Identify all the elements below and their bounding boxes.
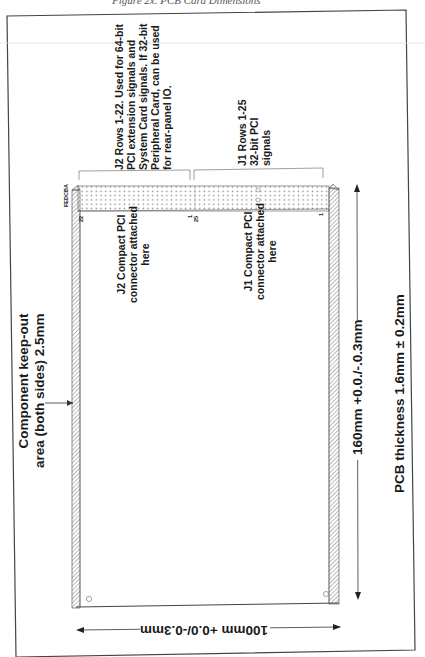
mounting-hole [323, 591, 328, 596]
column-letters: FEDCBA [63, 184, 69, 207]
keepout-label: Component keep-out area (both sides) 2.5… [16, 313, 48, 468]
thickness-label: PCB thickness 1.6mm ± 0.2mm [392, 294, 408, 493]
mounting-hole [86, 596, 91, 601]
key-hole [256, 188, 260, 192]
pcb-outline [72, 184, 339, 608]
key-hole [256, 198, 260, 202]
left-keepout-hatch [72, 190, 80, 608]
j2-pin-start: 22 [78, 216, 84, 222]
width-dimension-label: 100mm +0.0/-0.3mm [140, 622, 268, 638]
j1-pin-start: 25 [193, 216, 199, 222]
j2-bracket [79, 170, 190, 180]
right-keepout-hatch [329, 188, 339, 604]
j1-bracket [194, 168, 323, 180]
j2-attach-label: J2 Compact PCI connector attached here [115, 206, 151, 303]
j1-attach-label: J1 Compact PCI connector attached here [242, 203, 278, 300]
length-dimension-label: 160mm +0.0./-.0.3mm [350, 320, 366, 455]
j2-region-label: J2 Rows 1-22. Used for 64-bit PCI extens… [113, 24, 173, 170]
j1-pin-end: 1 [318, 213, 324, 216]
j1-region-label: J1 Rows 1-25 32-bit PCI signals [236, 99, 272, 166]
